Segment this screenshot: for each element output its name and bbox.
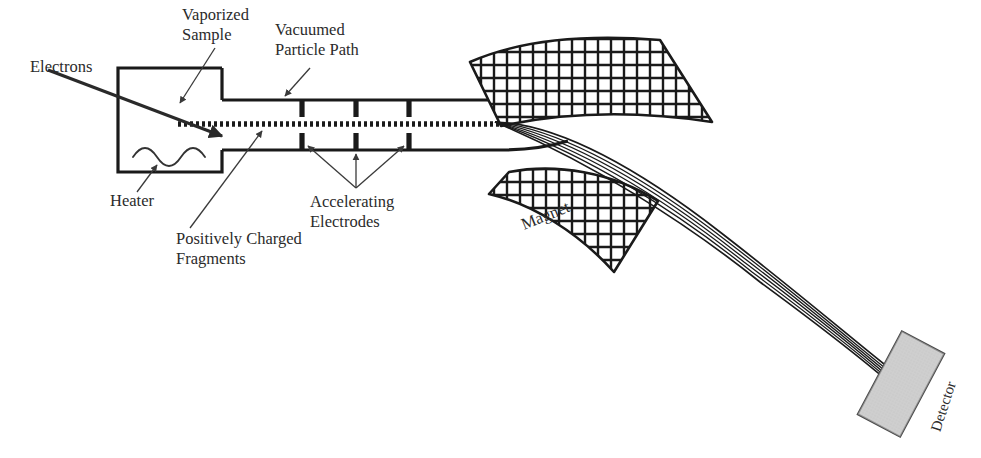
heater-arrow — [137, 165, 157, 192]
accelerating-electrodes-arrows — [308, 146, 404, 188]
vacuumed-path-arrow — [285, 68, 310, 96]
mass-spectrometer-diagram: Detector Electrons Vaporized Sample Vacu… — [0, 0, 981, 458]
ion-beam-trajectories — [495, 122, 914, 404]
vaporized-sample-label-line1: Vaporized — [182, 5, 250, 24]
detector-label-group: Detector — [928, 379, 959, 433]
positively-charged-label-line2: Fragments — [176, 249, 246, 268]
detector-label: Detector — [928, 379, 959, 433]
positively-charged-label-line1: Positively Charged — [176, 229, 302, 248]
heater-coil — [133, 148, 205, 166]
positively-charged-arrow — [190, 131, 262, 228]
vacuumed-particle-path-label-line1: Vacuumed — [275, 20, 345, 39]
accelerating-electrodes-label-line1: Accelerating — [310, 192, 394, 211]
magnet-pole-upper — [470, 38, 712, 126]
electrons-label: Electrons — [30, 57, 92, 76]
vaporized-sample-arrow — [180, 48, 215, 103]
heater-label: Heater — [110, 191, 154, 210]
vacuumed-particle-path-label-line2: Particle Path — [275, 40, 360, 59]
electrons-arrow — [48, 70, 222, 136]
vaporized-sample-label-line2: Sample — [182, 25, 232, 44]
accelerating-electrodes-label-line2: Electrodes — [310, 212, 380, 231]
